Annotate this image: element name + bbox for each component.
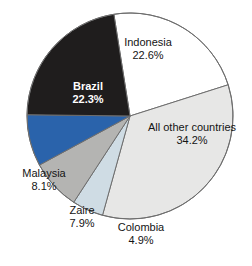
slice-label-all-other-countries: All other countries 34.2% bbox=[140, 121, 244, 147]
slice-label-zaire-value: 7.9% bbox=[58, 217, 106, 230]
pie-chart: Indonesia 22.6% All other countries 34.2… bbox=[0, 0, 252, 266]
slice-label-all-other-countries-value: 34.2% bbox=[140, 134, 244, 147]
slice-label-malaysia: Malaysia 8.1% bbox=[8, 167, 80, 193]
slice-label-brazil: Brazil 22.3% bbox=[55, 80, 121, 106]
slice-label-indonesia-value: 22.6% bbox=[110, 49, 186, 62]
slice-label-brazil-value: 22.3% bbox=[55, 93, 121, 106]
slice-label-zaire-name: Zaire bbox=[58, 204, 106, 217]
slice-label-colombia-name: Colombia bbox=[104, 221, 178, 234]
slice-label-brazil-name: Brazil bbox=[55, 80, 121, 93]
slice-label-indonesia: Indonesia 22.6% bbox=[110, 36, 186, 62]
slice-label-malaysia-name: Malaysia bbox=[8, 167, 80, 180]
slice-label-colombia: Colombia 4.9% bbox=[104, 221, 178, 247]
slice-label-zaire: Zaire 7.9% bbox=[58, 204, 106, 230]
slice-label-colombia-value: 4.9% bbox=[104, 234, 178, 247]
slice-label-malaysia-value: 8.1% bbox=[8, 180, 80, 193]
slice-label-indonesia-name: Indonesia bbox=[110, 36, 186, 49]
slice-label-all-other-countries-name: All other countries bbox=[140, 121, 244, 134]
